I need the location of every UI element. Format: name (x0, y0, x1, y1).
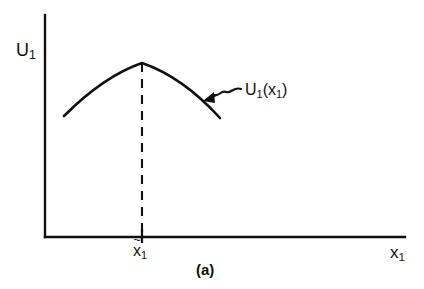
curve-label-main: U (245, 81, 257, 98)
x-axis-label-main: x (390, 243, 399, 262)
curve-label-sub2: 1 (276, 88, 282, 100)
curve-label-close: ) (282, 81, 287, 98)
tilde-accent: ~ (133, 233, 141, 246)
curve-label-open: (x (263, 81, 276, 98)
callout-wavy-tail (215, 88, 241, 95)
y-axis-label-main: U (16, 40, 29, 60)
y-axis-label: U1 (16, 41, 36, 59)
curve-label-sub1: 1 (257, 88, 263, 100)
curve-annotation-label: U1(x1) (245, 82, 287, 98)
x-tick-label: ~x1 (133, 243, 147, 259)
figure-container: U1 x1 U1(x1) ~x1 (a) (0, 0, 424, 289)
tick-label-accented-letter: ~x (133, 243, 141, 259)
figure-graphic (0, 0, 424, 289)
tick-label-sub: 1 (141, 249, 147, 261)
x-axis-label-sub: 1 (399, 251, 405, 263)
figure-caption: (a) (196, 262, 214, 277)
y-axis-label-sub: 1 (29, 48, 36, 62)
x-axis-label: x1 (390, 244, 405, 261)
